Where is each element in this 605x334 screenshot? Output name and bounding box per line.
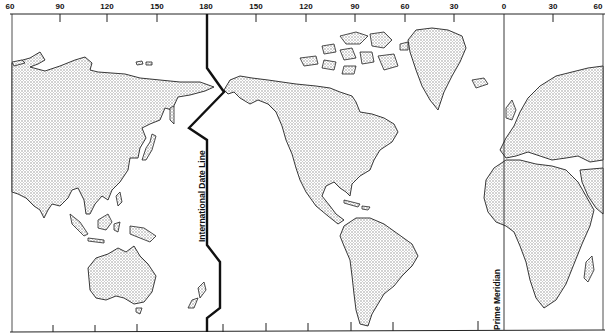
axis-label-60e: 60 (594, 2, 603, 11)
island-iceland (472, 78, 488, 88)
axis-label-30e: 30 (549, 2, 558, 11)
island-tasmania (136, 308, 142, 314)
island-new-guinea (130, 226, 156, 242)
date-line-label: International Date Line (197, 150, 207, 242)
map-canvas (0, 0, 605, 334)
top-ticks (60, 14, 553, 22)
island-sumatra (70, 214, 88, 236)
island-java (88, 238, 104, 243)
world-map: 60 90 120 150 180 150 120 90 60 30 0 30 … (0, 0, 605, 334)
island-sulawesi (114, 222, 120, 232)
island-severnaya (136, 61, 152, 65)
axis-label-0: 0 (502, 2, 506, 11)
island-britain (506, 100, 516, 120)
island-borneo (98, 214, 112, 230)
axis-label-90w: 90 (351, 2, 360, 11)
axis-label-150w: 150 (249, 2, 262, 11)
island-sakhalin (170, 106, 174, 124)
landmass-australia (88, 246, 156, 304)
landmass-south-america (340, 218, 418, 326)
canadian-arctic-islands (300, 32, 408, 74)
axis-label-150: 150 (150, 2, 163, 11)
axis-label-60w: 60 (6, 2, 15, 11)
landmass-asia (12, 52, 214, 218)
island-cuba (344, 200, 360, 207)
island-madagascar (584, 256, 594, 282)
island-hispaniola (362, 206, 370, 210)
island-new-zealand (188, 282, 206, 308)
axis-label-120: 120 (100, 2, 113, 11)
landmass-europe (500, 66, 603, 162)
landmass-greenland (408, 28, 466, 110)
axis-label-60w2: 60 (401, 2, 410, 11)
prime-meridian-label: Prime Meridian (492, 269, 502, 330)
axis-label-90: 90 (56, 2, 65, 11)
axis-label-180: 180 (199, 2, 212, 11)
axis-label-120w: 120 (299, 2, 312, 11)
axis-label-30w: 30 (450, 2, 459, 11)
landmass-north-america (224, 76, 398, 224)
island-philippines (116, 192, 122, 206)
